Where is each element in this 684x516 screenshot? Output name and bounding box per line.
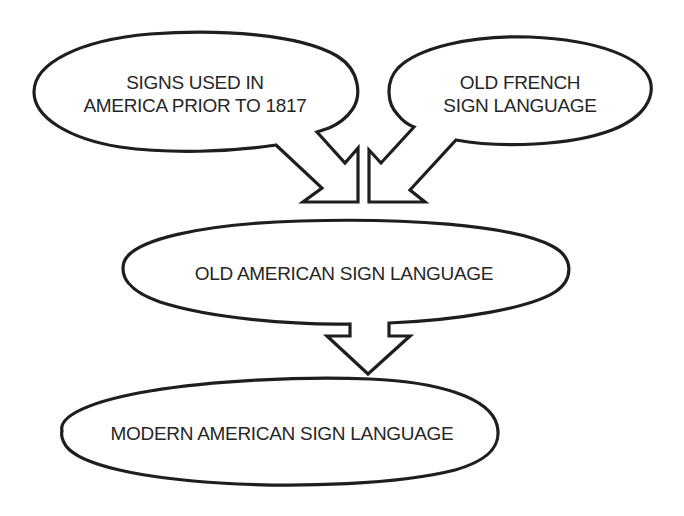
node-signs-prior-1817 [34,32,358,202]
label-old-french-line2: SIGN LANGUAGE [443,94,596,117]
label-old-french: OLD FRENCH SIGN LANGUAGE [443,71,596,117]
label-modern-american: MODERN AMERICAN SIGN LANGUAGE [111,422,454,445]
node-old-american [123,220,569,374]
speech-bubble-old-french [369,37,651,202]
label-modern-american-line1: MODERN AMERICAN SIGN LANGUAGE [111,422,454,445]
label-signs-prior-1817-line1: SIGNS USED IN [83,71,306,94]
label-signs-prior-1817-line2: AMERICA PRIOR TO 1817 [83,94,306,117]
label-old-french-line1: OLD FRENCH [443,71,596,94]
speech-bubble-signs-prior-1817 [34,32,358,202]
label-signs-prior-1817: SIGNS USED IN AMERICA PRIOR TO 1817 [83,71,306,117]
node-old-french [369,37,651,202]
speech-bubble-old-american [123,220,569,374]
label-old-american-line1: OLD AMERICAN SIGN LANGUAGE [195,262,493,285]
label-old-american: OLD AMERICAN SIGN LANGUAGE [195,262,493,285]
